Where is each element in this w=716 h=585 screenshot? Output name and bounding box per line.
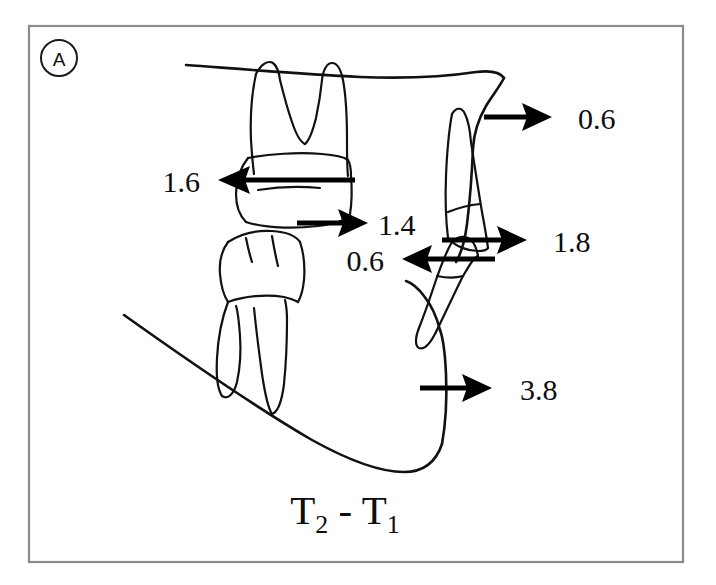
figure-caption: T2 - T1 xyxy=(290,487,400,539)
panel-label-badge: A xyxy=(41,40,77,76)
measurement-value-3-8: 3.8 xyxy=(520,373,558,406)
caption-separator: - xyxy=(328,487,361,533)
measurement-value-1-8: 1.8 xyxy=(553,225,591,258)
caption-base-2: T xyxy=(362,487,387,533)
measurement-value-1-4: 1.4 xyxy=(378,208,416,241)
figure-panel-a: 1.6 1.4 0.6 1.8 0.6 3.8 xyxy=(0,0,716,585)
caption-text-group: T2 - T1 xyxy=(290,487,400,539)
caption-subscript-1: 2 xyxy=(315,510,328,539)
cephalometric-superimposition-drawing: 1.6 1.4 0.6 1.8 0.6 3.8 xyxy=(0,0,716,585)
measurement-value-0-6-maxilla: 0.6 xyxy=(578,102,616,135)
measurement-value-1-6: 1.6 xyxy=(163,165,201,198)
panel-label-text: A xyxy=(53,49,66,70)
measurement-value-0-6-incisor: 0.6 xyxy=(347,244,385,277)
caption-base-1: T xyxy=(290,487,315,533)
caption-subscript-2: 1 xyxy=(387,510,400,539)
